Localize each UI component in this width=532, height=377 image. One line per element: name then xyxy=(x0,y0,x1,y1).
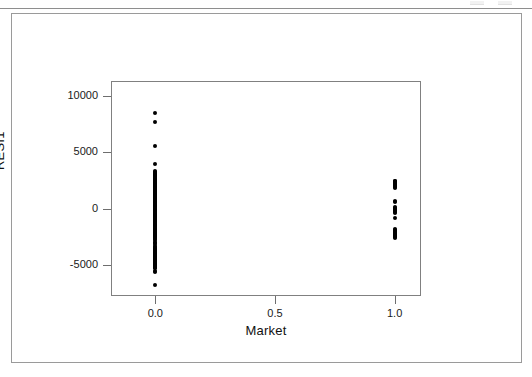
y-tick-label: 5000 xyxy=(0,146,111,157)
x-tick-label: 1.0 xyxy=(370,308,420,319)
x-tick-label: 0.0 xyxy=(130,308,180,319)
screenshot-root: 1000050000-5000 0.00.51.0 RESI1 Market xyxy=(0,0,532,377)
y-tick-label: 10000 xyxy=(0,90,111,101)
y-axis-title: RESI1 xyxy=(0,131,7,170)
x-tick-mark xyxy=(275,296,276,304)
x-tick-mark xyxy=(155,296,156,304)
plot-panel xyxy=(111,81,421,296)
y-tick-label: -5000 xyxy=(0,259,111,270)
x-tick-mark xyxy=(395,296,396,304)
x-tick-label: 0.5 xyxy=(250,308,300,319)
x-axis-title: Market xyxy=(111,323,421,338)
y-tick-label: 0 xyxy=(0,203,111,214)
scatter-figure: 1000050000-5000 0.00.51.0 RESI1 Market xyxy=(0,0,532,377)
